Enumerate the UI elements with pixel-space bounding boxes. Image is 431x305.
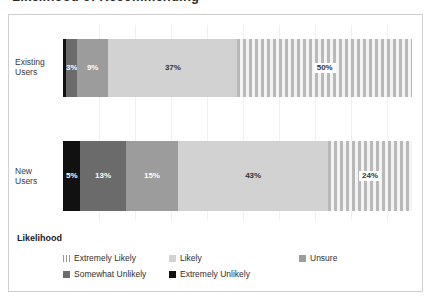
stacked-bar-new-users: 5% 13% 15% 43% 24% [63, 141, 412, 211]
legend-label: Extremely Unlikely [180, 269, 250, 279]
legend-label: Extremely Likely [74, 253, 136, 263]
bar-segment-likely[interactable]: 43% [178, 141, 328, 211]
category-label-line2: Users [15, 176, 61, 186]
bar-segment-unsure[interactable]: 9% [77, 39, 108, 97]
bar-segment-value: 3% [66, 64, 76, 72]
legend: Likelihood Extremely Likely Likely Unsur… [9, 233, 422, 291]
bar-segment-value: 13% [95, 172, 111, 180]
legend-title: Likelihood [17, 233, 62, 243]
legend-spacer [299, 266, 419, 282]
legend-item-unsure[interactable]: Unsure [299, 250, 419, 266]
bar-segment-value: 50% [314, 63, 336, 73]
bar-segment-extremely-likely[interactable]: 24% [328, 141, 412, 211]
bar-segment-extremely-likely[interactable]: 50% [237, 39, 412, 97]
category-label-line1: Existing [15, 57, 61, 67]
cut-off-title-remnant: Likelihood of Recommending [0, 0, 431, 11]
bar-row-new-users: New Users 5% 13% 15% 43% 24% [9, 141, 422, 211]
bar-row-existing-users: Existing Users 3% 9% 37% 50% [9, 39, 422, 97]
legend-label: Somewhat Unlikely [74, 269, 146, 279]
legend-item-extremely-likely[interactable]: Extremely Likely [9, 250, 169, 266]
legend-swatch-likely-icon [169, 255, 176, 262]
bar-segment-value: 5% [66, 172, 78, 180]
stacked-bar-existing-users: 3% 9% 37% 50% [63, 39, 412, 97]
legend-item-likely[interactable]: Likely [169, 250, 299, 266]
category-label-new-users: New Users [15, 166, 61, 186]
bar-segment-value: 24% [359, 171, 381, 181]
legend-swatch-unsure-icon [299, 255, 306, 262]
legend-swatch-extremely-unlikely-icon [169, 271, 176, 278]
cut-off-title-text: Likelihood of Recommending [12, 0, 199, 4]
legend-swatch-extremely-likely-icon [63, 255, 70, 262]
bar-segment-value: 9% [87, 64, 99, 72]
bar-segment-somewhat-unlikely[interactable]: 13% [80, 141, 125, 211]
bar-segment-extremely-unlikely[interactable]: 5% [63, 141, 80, 211]
bar-segment-value: 37% [165, 64, 181, 72]
legend-label: Unsure [310, 253, 337, 263]
legend-label: Likely [180, 253, 202, 263]
chart-frame: Existing Users 3% 9% 37% 50% [8, 14, 423, 292]
bar-segment-value: 43% [245, 172, 261, 180]
legend-item-somewhat-unlikely[interactable]: Somewhat Unlikely [9, 266, 169, 282]
bar-segment-somewhat-unlikely[interactable]: 3% [66, 39, 76, 97]
category-label-line2: Users [15, 67, 61, 77]
bar-segment-likely[interactable]: 37% [108, 39, 237, 97]
legend-swatch-somewhat-unlikely-icon [63, 271, 70, 278]
bar-segment-unsure[interactable]: 15% [126, 141, 178, 211]
legend-row: Somewhat Unlikely Extremely Unlikely [9, 266, 422, 282]
legend-item-extremely-unlikely[interactable]: Extremely Unlikely [169, 266, 299, 282]
legend-row: Extremely Likely Likely Unsure [9, 250, 422, 266]
category-label-existing-users: Existing Users [15, 57, 61, 77]
category-label-line1: New [15, 166, 61, 176]
plot-area: Existing Users 3% 9% 37% 50% [9, 15, 422, 227]
bar-segment-value: 15% [144, 172, 160, 180]
